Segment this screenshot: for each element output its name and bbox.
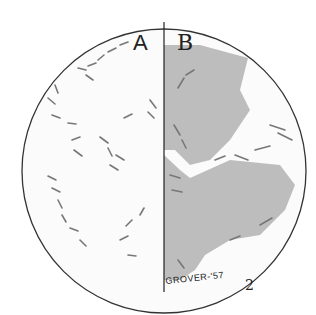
figure-number: 2 — [245, 277, 254, 293]
microscope-field-illustration — [0, 0, 316, 315]
panel-a-label: A — [133, 30, 148, 56]
panel-b-label: B — [177, 30, 193, 55]
